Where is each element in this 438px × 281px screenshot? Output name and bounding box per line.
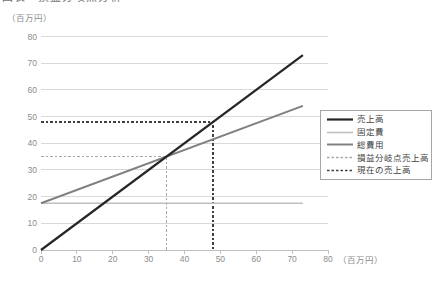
x-tick-label: 60 [252,254,262,264]
y-tick-label: 10 [28,218,38,228]
legend-item-label: 固定費 [357,128,384,137]
legend-line-sample [327,155,353,160]
y-tick-label: 60 [28,85,38,95]
legend-item-sales: 売上高 [327,114,431,125]
series-line-sales [41,55,303,250]
legend-line-sample [327,142,353,147]
legend-line-sample [327,117,353,122]
x-tick-label: 40 [180,254,190,264]
legend-item-current_guide: 現在の売上高 [327,165,431,176]
y-tick-label: 70 [28,58,38,68]
y-tick-label: 20 [28,192,38,202]
legend-item-label: 総費用 [357,141,384,150]
x-tick-label: 50 [216,254,226,264]
legend-item-fixed: 固定費 [327,127,431,138]
x-tick-label: 80 [323,254,333,264]
legend-item-label: 損益分岐点売上高 [357,154,429,163]
legend-line-sample [327,130,353,135]
legend-item-label: 現在の売上高 [357,166,411,175]
y-tick-label: 80 [28,32,38,42]
y-tick-label: 40 [28,138,38,148]
legend-line-sample [327,168,353,173]
legend-item-total: 総費用 [327,139,431,150]
chart-legend: 売上高固定費総費用損益分岐点売上高現在の売上高 [320,110,432,180]
y-tick-label: 30 [28,165,38,175]
y-tick-label: 0 [32,245,37,255]
x-tick-label: 10 [72,254,82,264]
legend-item-break_even_guide: 損益分岐点売上高 [327,152,431,163]
y-tick-label: 50 [28,112,38,122]
series-line-total [41,106,303,203]
x-tick-label: 20 [108,254,118,264]
x-tick-label: 30 [144,254,154,264]
x-tick-label: 70 [287,254,297,264]
legend-item-label: 売上高 [357,115,384,124]
x-tick-label: 0 [39,254,44,264]
break-even-chart-figure: 図表 損益分岐点分析 （百万円） 01020304050607080010203… [0,0,438,281]
x-axis-unit-label: （百万円） [338,253,383,265]
